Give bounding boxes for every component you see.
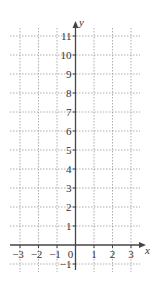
- y-tick-label: 4: [66, 163, 72, 175]
- x-tick-label: 0: [68, 248, 74, 260]
- y-tick-label: 2: [66, 201, 72, 213]
- x-tick-label: 1: [91, 248, 97, 260]
- y-tick-label: 9: [66, 68, 72, 80]
- y-tick-label: 8: [66, 87, 72, 99]
- y-tick-label: 1: [66, 220, 72, 232]
- x-tick-label: 2: [110, 248, 116, 260]
- y-tick-label: 5: [66, 144, 72, 156]
- y-axis-arrow-icon: [73, 21, 79, 28]
- y-tick-label: 7: [66, 106, 72, 118]
- y-axis-label: y: [78, 16, 84, 28]
- x-tick-label: 3: [128, 248, 134, 260]
- y-tick-label: 3: [66, 182, 72, 194]
- coordinate-grid: x y −11234567891011 −3−2−10123: [0, 0, 158, 290]
- x-tick-label: −2: [31, 248, 43, 260]
- x-axis-label: x: [144, 244, 150, 256]
- y-tick-label: 10: [61, 49, 73, 61]
- x-tick-label: −3: [12, 248, 24, 260]
- x-tick-label: −1: [49, 248, 61, 260]
- x-tick-labels: −3−2−10123: [12, 245, 134, 260]
- y-tick-label: 11: [61, 30, 72, 42]
- y-tick-label: 6: [66, 125, 72, 137]
